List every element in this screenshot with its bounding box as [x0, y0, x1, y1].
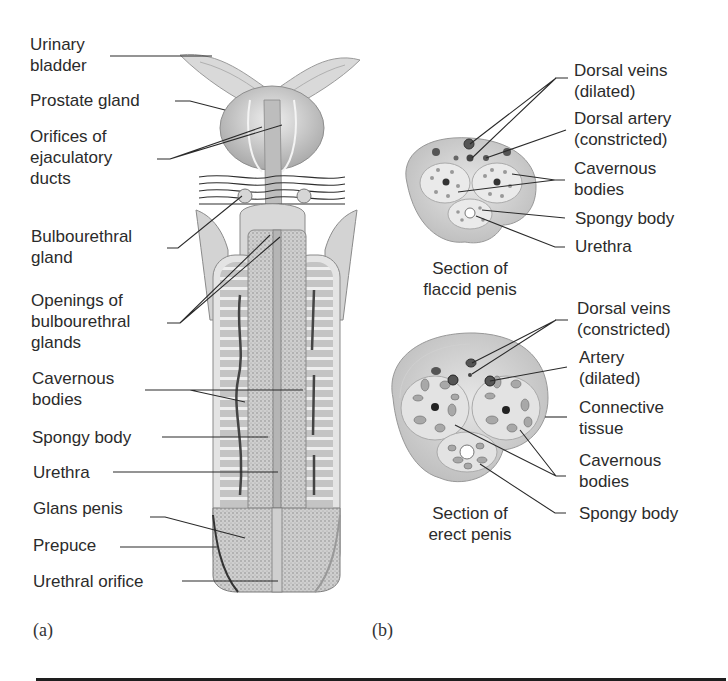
label-line: tissue	[579, 418, 664, 439]
label-line: bodies	[579, 471, 661, 492]
label-line: Openings of	[31, 290, 130, 311]
label-urinary-bladder: Urinary bladder	[30, 34, 87, 76]
caption-erect-section: Section of erect penis	[405, 503, 535, 545]
label-orifices-ejaculatory-ducts: Orifices of ejaculatory ducts	[30, 126, 112, 189]
label-line: glands	[31, 332, 130, 353]
label-line: (constricted)	[574, 129, 671, 150]
label-line: bulbourethral	[31, 311, 130, 332]
label-line: bladder	[30, 55, 87, 76]
label-urethra-flaccid: Urethra	[575, 236, 632, 257]
label-spongy-body-erect: Spongy body	[579, 503, 678, 524]
label-line: Dorsal veins	[577, 298, 671, 319]
label-line: Cavernous	[574, 158, 656, 179]
label-line: ducts	[30, 168, 112, 189]
caption-line: flaccid penis	[405, 279, 535, 300]
label-line: Urethral orifice	[33, 571, 144, 592]
caption-line: erect penis	[405, 524, 535, 545]
label-line: Urethra	[575, 236, 632, 257]
label-cavernous-bodies-a: Cavernous bodies	[32, 368, 114, 410]
label-urethra-a: Urethra	[33, 462, 90, 483]
label-openings-bulbourethral-glands: Openings of bulbourethral glands	[31, 290, 130, 353]
label-glans-penis: Glans penis	[33, 498, 123, 519]
label-line: Orifices of	[30, 126, 112, 147]
label-line: Spongy body	[32, 427, 131, 448]
label-line: Urethra	[33, 462, 90, 483]
label-dorsal-veins-dilated: Dorsal veins (dilated)	[574, 60, 668, 102]
label-cavernous-bodies-flaccid: Cavernous bodies	[574, 158, 656, 200]
label-line: bodies	[32, 389, 114, 410]
label-prostate-gland: Prostate gland	[30, 90, 140, 111]
label-dorsal-artery-constricted: Dorsal artery (constricted)	[574, 108, 671, 150]
label-line: (dilated)	[574, 81, 668, 102]
label-dorsal-veins-constricted: Dorsal veins (constricted)	[577, 298, 671, 340]
label-prepuce: Prepuce	[33, 535, 96, 556]
label-line: gland	[31, 247, 132, 268]
panel-letter-a: (a)	[33, 620, 53, 641]
label-line: Glans penis	[33, 498, 123, 519]
label-line: Dorsal veins	[574, 60, 668, 81]
caption-flaccid-section: Section of flaccid penis	[405, 258, 535, 300]
label-spongy-body-a: Spongy body	[32, 427, 131, 448]
label-line: Cavernous	[579, 450, 661, 471]
label-line: Artery	[579, 347, 640, 368]
label-line: (dilated)	[579, 368, 640, 389]
label-cavernous-bodies-erect: Cavernous bodies	[579, 450, 661, 492]
label-line: bodies	[574, 179, 656, 200]
erect-cross-section-art	[392, 333, 548, 482]
label-connective-tissue: Connective tissue	[579, 397, 664, 439]
caption-line: Section of	[405, 258, 535, 279]
label-line: Spongy body	[575, 208, 674, 229]
label-spongy-body-flaccid: Spongy body	[575, 208, 674, 229]
label-bulbourethral-gland: Bulbourethral gland	[31, 226, 132, 268]
caption-line: Section of	[405, 503, 535, 524]
label-line: Spongy body	[579, 503, 678, 524]
label-urethral-orifice: Urethral orifice	[33, 571, 144, 592]
label-line: ejaculatory	[30, 147, 112, 168]
label-line: Dorsal artery	[574, 108, 671, 129]
label-line: Urinary	[30, 34, 87, 55]
panel-letter-b: (b)	[372, 620, 393, 641]
label-line: Prepuce	[33, 535, 96, 556]
label-line: Prostate gland	[30, 90, 140, 111]
label-line: Cavernous	[32, 368, 114, 389]
glans-penis-art	[213, 508, 340, 592]
label-line: Bulbourethral	[31, 226, 132, 247]
label-line: Connective	[579, 397, 664, 418]
label-line: (constricted)	[577, 319, 671, 340]
label-artery-dilated: Artery (dilated)	[579, 347, 640, 389]
